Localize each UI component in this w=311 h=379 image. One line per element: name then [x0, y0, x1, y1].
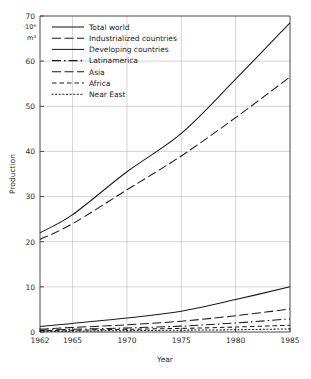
legend-label: Total world [88, 23, 130, 32]
y-axis-unit-volume: m³ [27, 34, 36, 42]
production-line-chart: 010203040506070 196219651970197519801985… [0, 0, 311, 379]
y-tick-label: 50 [25, 102, 35, 111]
chart-background [0, 0, 311, 379]
legend-label: Africa [89, 79, 110, 88]
x-tick-label: 1975 [172, 336, 191, 345]
x-tick-label: 1965 [63, 336, 82, 345]
x-tick-label: 1985 [280, 336, 299, 345]
y-axis-title: Production [8, 154, 17, 194]
x-tick-label: 1962 [30, 336, 49, 345]
y-tick-label: 30 [25, 192, 35, 201]
y-tick-label: 20 [25, 238, 35, 247]
legend-label: Near East [89, 90, 126, 99]
x-tick-label: 1980 [226, 336, 245, 345]
legend-label: Developing countries [89, 45, 169, 54]
y-tick-label: 70 [25, 12, 35, 21]
y-tick-label: 60 [25, 57, 35, 66]
y-tick-label: 10 [25, 283, 35, 292]
x-tick-label: 1970 [117, 336, 136, 345]
x-axis-title: Year [156, 355, 174, 364]
legend-label: Latinamerica [89, 56, 138, 65]
legend-label: Asia [89, 68, 105, 77]
legend-label: Industrialized countries [89, 34, 177, 43]
y-axis-unit-exponent: ·10⁶ [23, 23, 36, 31]
y-tick-label: 40 [25, 147, 35, 156]
chart-figure: 010203040506070 196219651970197519801985… [0, 0, 311, 379]
